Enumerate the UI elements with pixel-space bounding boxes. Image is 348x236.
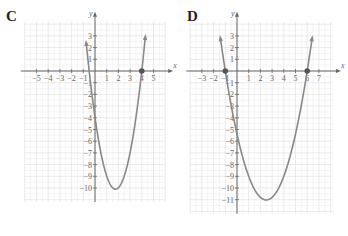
svg-text:−4: −4 xyxy=(44,74,53,83)
svg-text:−9: −9 xyxy=(83,172,92,181)
zero-point xyxy=(304,68,310,74)
zero-point xyxy=(223,68,229,74)
svg-text:−5: −5 xyxy=(83,126,92,135)
svg-text:−8: −8 xyxy=(225,161,234,170)
svg-text:−9: −9 xyxy=(225,172,234,181)
svg-text:3: 3 xyxy=(88,32,92,41)
svg-text:5: 5 xyxy=(152,74,156,83)
svg-text:−4: −4 xyxy=(83,114,92,123)
svg-text:2: 2 xyxy=(88,44,92,53)
svg-text:−3: −3 xyxy=(198,74,207,83)
svg-text:3: 3 xyxy=(128,74,132,83)
svg-text:2: 2 xyxy=(230,44,234,53)
graphs-canvas: xy−5−4−3−2−112345321−1−2−3−4−5−6−7−8−9−1… xyxy=(0,0,348,236)
svg-text:−2: −2 xyxy=(67,74,76,83)
svg-text:3: 3 xyxy=(270,74,274,83)
arrow-head-icon xyxy=(143,34,147,40)
svg-text:−6: −6 xyxy=(225,137,234,146)
svg-text:1: 1 xyxy=(105,74,109,83)
svg-text:2: 2 xyxy=(116,74,120,83)
y-axis-label: y xyxy=(88,9,93,18)
svg-text:−6: −6 xyxy=(83,137,92,146)
svg-text:5: 5 xyxy=(294,74,298,83)
svg-text:−11: −11 xyxy=(222,196,234,205)
graph-d: xy−3−2−11234567321−1−2−3−4−5−6−7−8−9−10−… xyxy=(186,9,345,214)
svg-text:−5: −5 xyxy=(32,74,41,83)
x-axis-label: x xyxy=(340,61,345,70)
svg-text:4: 4 xyxy=(282,74,286,83)
svg-text:−5: −5 xyxy=(225,126,234,135)
svg-text:1: 1 xyxy=(230,55,234,64)
x-axis-label: x xyxy=(172,61,177,70)
svg-text:−7: −7 xyxy=(83,149,92,158)
svg-text:−2: −2 xyxy=(209,74,218,83)
svg-text:2: 2 xyxy=(258,74,262,83)
zero-point xyxy=(139,68,145,74)
svg-text:−8: −8 xyxy=(83,161,92,170)
svg-text:−3: −3 xyxy=(56,74,65,83)
svg-text:7: 7 xyxy=(317,74,321,83)
svg-text:−10: −10 xyxy=(79,184,92,193)
y-axis-label: y xyxy=(230,9,235,18)
svg-text:3: 3 xyxy=(230,32,234,41)
graph-c: xy−5−4−3−2−112345321−1−2−3−4−5−6−7−8−9−1… xyxy=(21,9,177,202)
svg-text:−7: −7 xyxy=(225,149,234,158)
svg-text:−3: −3 xyxy=(83,102,92,111)
svg-text:−10: −10 xyxy=(221,184,234,193)
svg-text:1: 1 xyxy=(247,74,251,83)
svg-text:−2: −2 xyxy=(83,90,92,99)
